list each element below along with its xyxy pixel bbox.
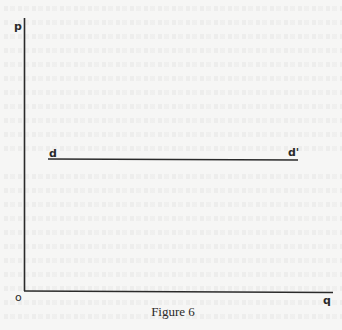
origin-label-o: o xyxy=(15,292,22,303)
figure-6-diagram: p o q d d' Figure 6 xyxy=(0,0,342,330)
figure-caption: Figure 6 xyxy=(0,304,342,320)
diagram-lines xyxy=(0,0,342,330)
demand-line-dd xyxy=(48,159,298,160)
x-axis-line xyxy=(24,291,333,293)
curve-label-d-prime: d' xyxy=(288,147,299,158)
y-axis-label-p: p xyxy=(14,21,22,32)
curve-label-d: d xyxy=(49,148,57,159)
